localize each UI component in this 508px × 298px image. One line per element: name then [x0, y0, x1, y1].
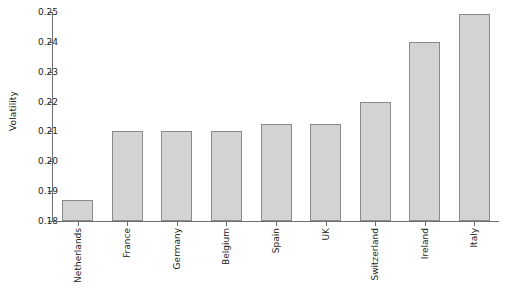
x-axis-tick-mark	[474, 222, 475, 226]
x-axis-tick-mark	[177, 222, 178, 226]
x-axis-category-label-text: UK	[321, 228, 331, 241]
x-axis-category-label-text: France	[122, 228, 132, 258]
x-axis-tick-mark	[425, 222, 426, 226]
x-axis-category-label: France	[120, 228, 134, 298]
bar	[409, 42, 440, 221]
x-axis-tick-mark	[375, 222, 376, 226]
bar	[261, 124, 292, 221]
x-axis-tick-mark	[127, 222, 128, 226]
y-axis-title: Volatility	[2, 0, 24, 222]
x-axis-category-label: Spain	[269, 228, 283, 298]
bar	[62, 200, 93, 221]
x-axis-category-label: Germany	[170, 228, 184, 298]
x-axis-category-label: UK	[319, 228, 333, 298]
x-axis-category-label-text: Switzerland	[370, 228, 380, 281]
x-axis-category-label-text: Spain	[271, 228, 281, 253]
x-axis-category-label: Italy	[467, 228, 481, 298]
bar	[459, 14, 490, 222]
x-axis-category-label-text: Italy	[469, 228, 479, 248]
x-axis-tick-mark	[276, 222, 277, 226]
x-axis-category-label: Belgium	[219, 228, 233, 298]
plot-area	[53, 12, 499, 221]
bar	[161, 131, 192, 221]
x-axis-category-label: Ireland	[418, 228, 432, 298]
x-axis-tick-mark	[78, 222, 79, 226]
bar	[211, 131, 242, 221]
x-axis-category-label-text: Germany	[172, 228, 182, 269]
x-axis-category-label: Switzerland	[368, 228, 382, 298]
bar	[112, 131, 143, 221]
bar	[310, 124, 341, 221]
x-axis-category-label-text: Ireland	[420, 228, 430, 259]
x-axis-category-label-text: Netherlands	[73, 228, 83, 283]
bar	[360, 102, 391, 221]
x-axis-tick-mark	[326, 222, 327, 226]
volatility-bar-chart: Volatility 0.180.190.200.210.220.230.240…	[0, 0, 508, 298]
x-axis-category-label: Netherlands	[71, 228, 85, 298]
x-axis-tick-mark	[226, 222, 227, 226]
x-axis-category-label-text: Belgium	[221, 228, 231, 265]
y-axis-title-label: Volatility	[8, 91, 18, 131]
